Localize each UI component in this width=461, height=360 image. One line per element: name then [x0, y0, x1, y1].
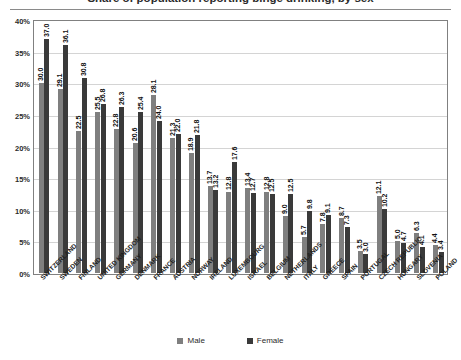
bar-value-label: 12.5 — [268, 179, 275, 192]
bar-female: 25.4 — [138, 112, 143, 273]
bar-female: 24.0 — [157, 121, 162, 273]
legend-swatch-icon — [177, 338, 183, 344]
legend-label: Male — [187, 336, 204, 345]
bar-group: 9.012.5 — [283, 22, 295, 273]
plot-area: 0%5%10%15%20%25%30%35%40% 30.037.029.136… — [33, 20, 448, 275]
bar-female: 10.2 — [382, 209, 387, 274]
bar-group: 28.124.0 — [151, 22, 163, 273]
bar-group: 13.412.7 — [245, 22, 257, 273]
y-axis-tick-label: 30% — [15, 80, 30, 89]
bar-value-label: 12.7 — [250, 177, 257, 190]
bar-value-label: 24.0 — [156, 106, 163, 119]
bar-female: 37.0 — [44, 39, 49, 273]
bar-value-label: 4.7 — [400, 232, 407, 241]
bar-value-label: 13.2 — [212, 174, 219, 187]
bar-male: 25.5 — [95, 112, 100, 273]
bar-male: 21.3 — [170, 138, 175, 273]
bar-value-label: 26.8 — [99, 88, 106, 101]
bar-group: 8.77.3 — [339, 22, 351, 273]
bar-value-label: 12.1 — [375, 181, 382, 194]
y-axis-tick-label: 20% — [15, 143, 30, 152]
bar-group: 22.826.3 — [114, 22, 126, 273]
y-axis-tick-label: 10% — [15, 206, 30, 215]
bar-value-label: 28.1 — [150, 80, 157, 93]
chart-title: Share of population reporting binge drin… — [0, 0, 461, 4]
bar-value-label: 6.3 — [413, 222, 420, 231]
bar-female: 17.6 — [232, 162, 237, 273]
title-divider-rule — [10, 9, 451, 10]
bar-male: 29.1 — [58, 89, 63, 273]
bar-group: 12.817.6 — [226, 22, 238, 273]
legend-item-male[interactable]: Male — [177, 336, 204, 345]
bars-layer: 30.037.029.136.122.530.825.526.822.826.3… — [35, 22, 446, 273]
bar-group: 21.322.0 — [170, 22, 182, 273]
bar-group: 13.713.2 — [208, 22, 220, 273]
bar-group: 5.79.8 — [302, 22, 314, 273]
bar-value-label: 21.8 — [193, 120, 200, 133]
bar-female: 9.8 — [307, 211, 312, 273]
bar-value-label: 3.4 — [437, 240, 444, 249]
bar-value-label: 36.1 — [62, 29, 69, 42]
y-axis-tick-label: 25% — [15, 111, 30, 120]
bar-group: 25.526.8 — [95, 22, 107, 273]
bar-group: 4.43.4 — [433, 22, 445, 273]
bar-male: 30.0 — [39, 83, 44, 273]
bar-female: 30.8 — [82, 78, 87, 273]
bar-value-label: 22.0 — [174, 119, 181, 132]
bar-group: 7.89.1 — [320, 22, 332, 273]
bar-group: 12.812.5 — [264, 22, 276, 273]
bar-group: 12.110.2 — [377, 22, 389, 273]
y-axis-tick-label: 0% — [19, 270, 30, 279]
y-axis-tick-label: 35% — [15, 48, 30, 57]
bar-male: 22.8 — [114, 129, 119, 273]
bar-female: 21.8 — [195, 135, 200, 273]
bar-male: 7.8 — [320, 224, 325, 273]
bar-value-label: 9.1 — [325, 204, 332, 213]
bar-group: 3.53.0 — [358, 22, 370, 273]
bar-value-label: 17.6 — [231, 146, 238, 159]
legend-label: Female — [257, 336, 284, 345]
bar-value-label: 26.3 — [118, 91, 125, 104]
bar-female: 9.1 — [326, 215, 331, 273]
x-axis-category-labels: SWITZERLANDSWEDENFINLANDUNITED KINGDOMGE… — [33, 276, 448, 336]
legend-item-female[interactable]: Female — [247, 336, 284, 345]
bar-value-label: 37.0 — [43, 24, 50, 37]
bar-value-label: 7.3 — [343, 215, 350, 224]
legend-swatch-icon — [247, 338, 253, 344]
bar-male: 22.5 — [76, 131, 81, 273]
bar-value-label: 30.8 — [81, 63, 88, 76]
bar-value-label: 9.8 — [306, 200, 313, 209]
y-axis-tick-label: 5% — [19, 238, 30, 247]
bar-male: 28.1 — [151, 95, 156, 273]
bar-female: 12.5 — [270, 194, 275, 273]
bar-group: 22.530.8 — [76, 22, 88, 273]
bar-value-label: 8.7 — [338, 207, 345, 216]
chart-root: Share of population reporting binge drin… — [0, 0, 461, 360]
bar-value-label: 10.2 — [381, 193, 388, 206]
bar-group: 5.04.7 — [395, 22, 407, 273]
bar-male: 3.5 — [358, 251, 363, 273]
y-axis-tick-label: 40% — [15, 17, 30, 26]
bar-female: 26.8 — [101, 104, 106, 274]
bar-group: 18.921.8 — [189, 22, 201, 273]
bar-group: 30.037.0 — [39, 22, 51, 273]
chart-legend: MaleFemale — [0, 336, 461, 345]
bar-group: 29.136.1 — [58, 22, 70, 273]
y-axis-tick-label: 15% — [15, 175, 30, 184]
bar-value-label: 12.5 — [287, 179, 294, 192]
bar-female: 36.1 — [63, 45, 68, 273]
chart-title-clipped: Share of population reporting binge drin… — [0, 0, 461, 9]
bar-female: 22.0 — [176, 134, 181, 273]
bar-value-label: 3.0 — [362, 243, 369, 252]
bar-value-label: 25.4 — [137, 97, 144, 110]
